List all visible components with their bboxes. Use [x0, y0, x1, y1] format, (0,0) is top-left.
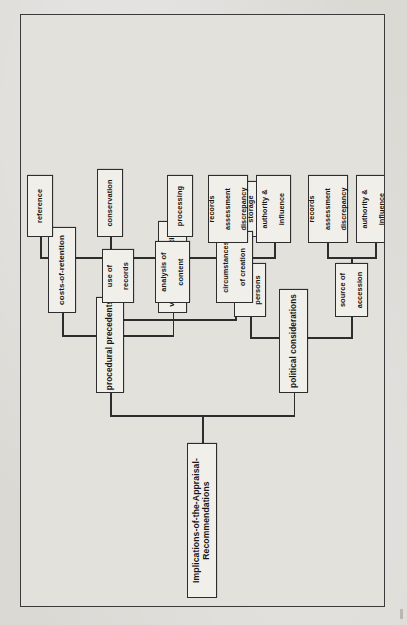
diagram-frame: Implications-of-the-Appraisal-Recommenda… [20, 14, 385, 607]
node-root[interactable]: Implications-of-the-Appraisal-Recommenda… [187, 443, 217, 598]
node-processing[interactable]: processing [167, 175, 193, 237]
node-procedural-precedents-label: procedural precedents [105, 299, 114, 389]
connector-to-procedural [110, 393, 112, 417]
node-use-of-records[interactable]: use of records [102, 249, 134, 303]
node-records-assessment-discrepancy-other-label: records assessment discrepancy [207, 187, 247, 230]
connector-source-spine [327, 257, 375, 259]
rotated-canvas-wrapper: Implications-of-the-Appraisal-Recommenda… [21, 15, 384, 606]
connector-to-other-persons [250, 317, 252, 339]
node-authority-b-line2: influence [377, 189, 384, 228]
node-use-of-records-line2: records [122, 262, 130, 290]
node-records-b-line3: discrepancy [340, 187, 348, 230]
node-political-considerations[interactable]: political considerations [279, 289, 308, 393]
node-circumstances-of-creation-line2: of creation [238, 241, 246, 293]
node-records-b-line2: assessment [323, 187, 331, 230]
node-use-of-records-label: use of records [105, 262, 130, 290]
node-authority-influence-other[interactable]: authority & influence [256, 175, 291, 243]
node-authority-a-line1: authority & [261, 189, 269, 228]
node-records-a-line1: records [207, 187, 215, 230]
connector-to-authority-a [274, 243, 276, 259]
node-analysis-of-content-label: analysis of content [160, 252, 185, 291]
node-records-assessment-discrepancy-source-label: records assessment discrepancy [307, 187, 347, 230]
node-use-of-records-line1: use of [105, 262, 113, 290]
node-reference-label: reference [35, 188, 43, 222]
node-records-assessment-discrepancy-source[interactable]: records assessment discrepancy [308, 175, 348, 243]
node-source-of-accession-label: source of accession [339, 271, 364, 308]
node-records-b-line1: records [307, 187, 315, 230]
node-authority-b-line1: authority & [361, 189, 369, 228]
node-source-of-accession-line2: accession [355, 271, 363, 308]
scan-artifact [400, 609, 403, 619]
connector-to-records-b [327, 243, 329, 259]
connector-to-authority-b [375, 243, 377, 259]
connector-to-source-accession [351, 317, 353, 339]
node-conservation-label: conservation [105, 179, 113, 226]
node-conservation[interactable]: conservation [97, 169, 123, 237]
node-authority-influence-other-label: authority & influence [261, 189, 285, 228]
scanned-page: Implications-of-the-Appraisal-Recommenda… [0, 0, 407, 625]
node-political-considerations-label: political considerations [288, 294, 297, 388]
node-analysis-of-content-line1: analysis of [160, 252, 168, 291]
connector-value-spine [118, 319, 236, 321]
node-records-a-line2: assessment [223, 187, 231, 230]
connector-to-reference [40, 237, 42, 259]
tree-diagram-canvas: Implications-of-the-Appraisal-Recommenda… [22, 16, 384, 606]
node-analysis-of-content[interactable]: analysis of content [155, 241, 190, 303]
node-other-persons-line2: persons [254, 275, 262, 304]
node-reference[interactable]: reference [27, 175, 53, 237]
node-costs-of-retention[interactable]: costs-of-retention [48, 227, 76, 313]
node-records-assessment-discrepancy-other[interactable]: records assessment discrepancy [208, 175, 248, 243]
node-authority-a-line2: influence [277, 189, 285, 228]
node-analysis-of-content-line2: content [176, 252, 184, 291]
node-root-label: Implications-of-the-Appraisal-Recommenda… [192, 445, 211, 596]
node-procedural-precedents[interactable]: procedural precedents [96, 297, 124, 393]
node-source-of-accession[interactable]: source of accession [335, 263, 368, 317]
connector-root-spine [110, 415, 295, 417]
connector-root-stub [202, 417, 204, 443]
node-authority-influence-source[interactable]: authority & influence [356, 175, 385, 243]
node-authority-influence-source-label: authority & influence [361, 189, 384, 228]
node-records-a-line3: discrepancy [240, 187, 248, 230]
node-source-of-accession-line1: source of [339, 271, 347, 308]
node-circumstances-of-creation-label: circumstances of creation [222, 241, 246, 293]
node-processing-label: processing [175, 185, 183, 225]
connector-to-political [293, 393, 295, 417]
node-circumstances-of-creation-line1: circumstances [222, 241, 230, 293]
connector-to-costs [62, 313, 64, 337]
node-costs-of-retention-label: costs-of-retention [57, 235, 66, 305]
